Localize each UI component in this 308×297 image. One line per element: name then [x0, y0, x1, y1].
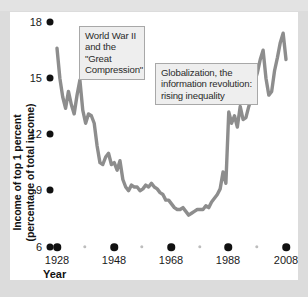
- y-tick-dot: [47, 131, 54, 138]
- x-tick-dot: [53, 243, 61, 251]
- annotation-line: information revolution:: [161, 78, 253, 89]
- chart-panel: [10, 12, 298, 280]
- x-tick-dot: [110, 243, 118, 251]
- y-tick-dot: [47, 187, 54, 194]
- x-tick-label: 1988: [216, 254, 240, 266]
- y-tick-label: 18: [20, 16, 42, 28]
- chart-figure: 18 15 12 9 6 1928 1948 1968 1988 2008 In…: [0, 0, 308, 297]
- x-tick-dot: [224, 243, 232, 251]
- y-tick-label: 15: [20, 72, 42, 84]
- x-tick-label: 1948: [102, 254, 126, 266]
- y-axis-title-line1: Income of top 1 percent: [11, 114, 23, 230]
- annotation-line: World War II: [85, 30, 140, 41]
- x-tick-label: 2008: [274, 254, 298, 266]
- annotation-line: Globalization, the: [161, 67, 253, 78]
- annotation-line: and the "Great: [85, 41, 140, 64]
- y-tick-dot: [47, 75, 54, 82]
- annotation-world-war-ii: World War II and the "Great Compression": [79, 26, 145, 80]
- x-axis-title: Year: [43, 268, 66, 280]
- x-tick-label: 1968: [159, 254, 183, 266]
- y-axis-title: Income of top 1 percent (percentage of t…: [11, 88, 36, 258]
- top-strip: [0, 0, 308, 11]
- x-tick-dot: [167, 243, 175, 251]
- x-tick-dot: [282, 243, 290, 251]
- y-tick-dot: [47, 19, 54, 26]
- annotation-line: rising inequality: [161, 90, 253, 101]
- annotation-globalization: Globalization, the information revolutio…: [155, 63, 258, 105]
- annotation-line: Compression": [85, 64, 140, 75]
- x-tick-label: 1928: [45, 254, 69, 266]
- y-axis-title-line2: (percentage of total income): [23, 104, 35, 242]
